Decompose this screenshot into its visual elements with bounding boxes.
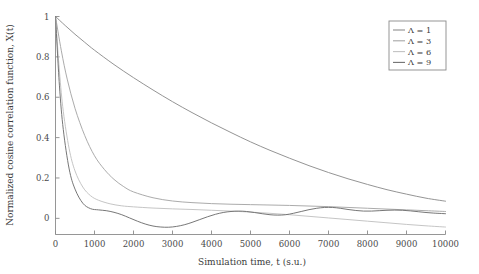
y-tick-label: 1 bbox=[44, 12, 49, 22]
chart-legend: Λ = 1Λ = 3Λ = 6Λ = 9 bbox=[389, 21, 446, 70]
series-line-3 bbox=[56, 17, 446, 228]
x-tick-label: 10000 bbox=[432, 239, 459, 249]
legend-label-2: Λ = 3 bbox=[407, 36, 431, 46]
x-tick-label: 7000 bbox=[318, 239, 340, 249]
x-tick-label: 0 bbox=[53, 239, 58, 249]
x-tick-label: 9000 bbox=[396, 239, 418, 249]
x-axis-label: Simulation time, t (s.u.) bbox=[198, 257, 306, 267]
y-tick-label: 0 bbox=[44, 213, 49, 223]
series-line-1 bbox=[56, 17, 446, 202]
chart-canvas: 00.20.40.60.81 0100020003000400050006000… bbox=[0, 0, 479, 274]
x-tick-label: 6000 bbox=[279, 239, 301, 249]
y-axis-label: Normalized cosine correlation function, … bbox=[5, 24, 15, 226]
axis-frame bbox=[56, 17, 446, 235]
x-axis-ticks: 0100020003000400050006000700080009000100… bbox=[53, 231, 459, 249]
y-tick-label: 0.2 bbox=[36, 173, 50, 183]
chart-figure: 00.20.40.60.81 0100020003000400050006000… bbox=[0, 0, 479, 274]
x-tick-label: 8000 bbox=[357, 239, 379, 249]
legend-label-1: Λ = 1 bbox=[407, 25, 431, 35]
y-tick-label: 0.8 bbox=[36, 52, 50, 62]
legend-label-4: Λ = 9 bbox=[407, 57, 431, 67]
series-line-4 bbox=[56, 17, 446, 228]
x-tick-label: 4000 bbox=[201, 239, 223, 249]
x-tick-label: 2000 bbox=[123, 239, 145, 249]
x-tick-label: 5000 bbox=[240, 239, 262, 249]
x-tick-label: 1000 bbox=[84, 239, 106, 249]
data-series-group bbox=[56, 17, 446, 228]
legend-label-3: Λ = 6 bbox=[407, 47, 431, 57]
y-tick-label: 0.6 bbox=[36, 92, 50, 102]
y-tick-label: 0.4 bbox=[36, 133, 50, 143]
x-tick-label: 3000 bbox=[162, 239, 184, 249]
series-line-2 bbox=[56, 17, 446, 212]
y-axis-ticks: 00.20.40.60.81 bbox=[36, 12, 60, 224]
